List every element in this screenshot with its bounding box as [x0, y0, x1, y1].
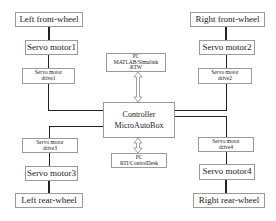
- drive4-line2: drive4: [219, 145, 233, 151]
- servo-motor1-label: Servo motor1: [27, 43, 76, 52]
- drive1-line2: drive1: [41, 76, 55, 82]
- right-rear-wheel-box: Right rear-wheel: [193, 193, 265, 208]
- right-front-wheel-box: Right front-wheel: [190, 12, 265, 27]
- left-front-wheel-box: Left front-wheel: [15, 12, 83, 27]
- servo-motor-drive3-box: Servo motor drive3: [22, 138, 78, 153]
- servo-motor3-label: Servo motor3: [27, 169, 76, 178]
- left-rear-wheel-box: Left rear-wheel: [15, 193, 83, 208]
- servo-motor4-box: Servo motor4: [199, 164, 255, 180]
- drive3-line2: drive3: [43, 146, 57, 152]
- right-front-wheel-label: Right front-wheel: [195, 15, 259, 24]
- servo-motor3-box: Servo motor3: [25, 166, 78, 181]
- servo-motor2-box: Servo motor2: [199, 40, 255, 55]
- controller-line1: Controller: [123, 109, 156, 120]
- left-front-wheel-label: Left front-wheel: [19, 15, 78, 24]
- right-rear-wheel-label: Right rear-wheel: [199, 196, 260, 205]
- drive2-line2: drive2: [218, 76, 232, 82]
- controller-line2: MicroAutoBox: [115, 120, 164, 131]
- servo-motor-drive2-box: Servo motor drive2: [198, 68, 252, 84]
- pc-rti-box: PC RTI/ControlDesk: [111, 153, 167, 168]
- pc-bottom-line2: RTI/ControlDesk: [120, 161, 158, 167]
- servo-motor-drive4-box: Servo motor drive4: [198, 137, 254, 152]
- servo-motor-drive1-box: Servo motor drive1: [22, 68, 75, 84]
- pc-matlab-box: PC MATLAB/Simulink RTW: [106, 53, 166, 72]
- servo-motor2-label: Servo motor2: [202, 43, 251, 52]
- arrow-controller-pc-bottom-icon: [134, 138, 142, 153]
- arrow-pc-top-controller-icon: [134, 72, 142, 102]
- servo-motor1-box: Servo motor1: [25, 40, 78, 55]
- controller-box: Controller MicroAutoBox: [103, 102, 175, 138]
- servo-motor4-label: Servo motor4: [202, 167, 251, 176]
- left-rear-wheel-label: Left rear-wheel: [21, 196, 77, 205]
- pc-top-line3: RTW: [130, 65, 142, 71]
